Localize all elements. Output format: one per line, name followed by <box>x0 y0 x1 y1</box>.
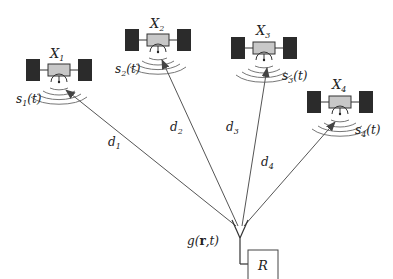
label-antenna: g(r,t) <box>187 234 219 248</box>
arrow-d2 <box>162 60 238 226</box>
label-x4: X4 <box>331 77 346 94</box>
label-receiver: R <box>257 258 268 273</box>
label-x2: X2 <box>149 16 164 33</box>
arrow-d3 <box>242 68 267 226</box>
diagram-canvas: X1 X2 X3 X4 s1(t) s2(t) s3(t) s4(t) d1 d… <box>0 0 393 279</box>
label-d1: d1 <box>108 135 121 151</box>
arrow-d4 <box>244 122 335 226</box>
antenna-icon <box>232 220 248 264</box>
label-d3: d3 <box>226 120 239 136</box>
label-s1: s1(t) <box>16 92 42 108</box>
label-s4: s4(t) <box>355 123 381 139</box>
label-d4: d4 <box>261 155 274 171</box>
label-x3: X3 <box>255 23 270 40</box>
label-s3: s3(t) <box>282 69 308 85</box>
label-s2: s2(t) <box>115 62 141 78</box>
distance-arrows <box>66 60 335 226</box>
arrow-d1 <box>66 90 236 226</box>
label-x1: X1 <box>49 46 64 63</box>
label-d2: d2 <box>170 120 183 136</box>
